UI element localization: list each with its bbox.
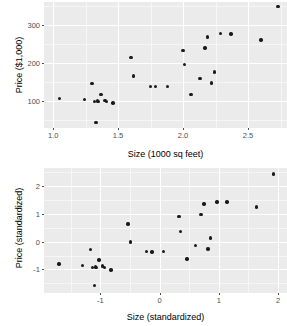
- data-point: [194, 244, 197, 247]
- data-point: [276, 5, 279, 8]
- data-point: [229, 32, 232, 35]
- data-point: [97, 100, 100, 103]
- data-point: [81, 264, 84, 267]
- gridline-major-vertical: [118, 2, 119, 128]
- x-tick-mark: [53, 128, 54, 130]
- gridline-major-horizontal: [44, 214, 287, 215]
- y-tick-mark: [42, 101, 44, 102]
- x-axis-title-top: Size (1000 sq feet): [44, 149, 287, 159]
- data-point: [198, 77, 201, 80]
- gridline-minor-horizontal: [44, 82, 287, 83]
- data-point: [181, 49, 184, 52]
- data-point: [154, 85, 157, 88]
- data-point: [109, 268, 112, 271]
- scatter-plot-price-vs-size-standardized: Price (standardized) Size (standardized)…: [0, 163, 287, 326]
- x-tick-mark: [100, 293, 101, 295]
- x-tick-label: 1: [217, 296, 221, 305]
- data-point: [225, 200, 228, 203]
- gridline-major-horizontal: [44, 186, 287, 187]
- data-point: [206, 35, 209, 38]
- y-tick-mark: [42, 25, 44, 26]
- gridline-major-horizontal: [44, 63, 287, 64]
- x-tick-mark: [183, 128, 184, 130]
- x-tick-mark: [219, 293, 220, 295]
- x-tick-label: 2: [276, 296, 280, 305]
- y-tick-label: 300: [18, 20, 40, 29]
- gridline-minor-horizontal: [44, 256, 287, 257]
- y-tick-mark: [42, 186, 44, 187]
- data-point: [162, 250, 165, 253]
- gridline-minor-vertical: [151, 2, 152, 128]
- gridline-major-horizontal: [44, 242, 287, 243]
- data-point: [97, 258, 100, 261]
- data-point: [202, 202, 205, 205]
- x-tick-label: 2.5: [243, 131, 253, 140]
- data-point: [213, 70, 216, 73]
- gridline-minor-vertical: [86, 2, 87, 128]
- gridline-minor-vertical: [281, 2, 282, 128]
- y-tick-mark: [42, 214, 44, 215]
- data-point: [150, 250, 153, 253]
- gridline-minor-horizontal: [44, 200, 287, 201]
- data-point: [209, 236, 212, 239]
- scatter-plot-price-vs-size: Price ($1,000) Size (1000 sq feet) 1.01.…: [0, 0, 287, 163]
- y-tick-label: 1: [18, 209, 40, 218]
- data-point: [129, 56, 132, 59]
- data-point: [210, 81, 213, 84]
- gridline-major-vertical: [248, 2, 249, 128]
- gridline-minor-horizontal: [44, 228, 287, 229]
- gridline-major-vertical: [53, 2, 54, 128]
- data-point: [255, 205, 258, 208]
- gridline-minor-horizontal: [44, 172, 287, 173]
- y-tick-mark: [42, 242, 44, 243]
- data-point: [83, 98, 86, 101]
- data-point: [93, 284, 96, 287]
- data-point: [149, 85, 152, 88]
- x-tick-label: 1.5: [113, 131, 123, 140]
- data-point: [58, 97, 61, 100]
- gridline-major-horizontal: [44, 269, 287, 270]
- y-tick-label: 200: [18, 59, 40, 68]
- plot-area-bottom: [44, 168, 287, 293]
- gridline-major-horizontal: [44, 25, 287, 26]
- data-point: [89, 248, 92, 251]
- data-point: [132, 74, 135, 77]
- y-tick-label: 2: [18, 182, 40, 191]
- data-point: [199, 213, 202, 216]
- data-point: [185, 257, 188, 260]
- data-point: [215, 200, 218, 203]
- data-point: [126, 222, 129, 225]
- gridline-minor-horizontal: [44, 283, 287, 284]
- gridline-major-horizontal: [44, 101, 287, 102]
- data-point: [111, 101, 114, 104]
- y-tick-mark: [42, 269, 44, 270]
- data-point: [90, 82, 93, 85]
- figure: Price ($1,000) Size (1000 sq feet) 1.01.…: [0, 0, 287, 326]
- data-point: [105, 100, 108, 103]
- data-point: [219, 32, 222, 35]
- gridline-minor-horizontal: [44, 6, 287, 7]
- x-tick-mark: [248, 128, 249, 130]
- data-point: [203, 46, 206, 49]
- data-point: [179, 230, 182, 233]
- x-tick-label: -1: [97, 296, 104, 305]
- plot-area-top: [44, 2, 287, 128]
- data-point: [183, 63, 186, 66]
- gridline-minor-horizontal: [44, 44, 287, 45]
- data-point: [259, 38, 262, 41]
- x-tick-mark: [118, 128, 119, 130]
- y-tick-mark: [42, 63, 44, 64]
- gridline-minor-horizontal: [44, 120, 287, 121]
- data-point: [177, 215, 180, 218]
- y-tick-label: -1: [18, 265, 40, 274]
- x-axis-title-bottom: Size (standardized): [44, 312, 287, 322]
- x-tick-label: 1.0: [48, 131, 58, 140]
- y-tick-label: 0: [18, 237, 40, 246]
- x-tick-label: 0: [157, 296, 161, 305]
- x-tick-mark: [278, 293, 279, 295]
- x-tick-label: 2.0: [178, 131, 188, 140]
- data-point: [145, 250, 148, 253]
- data-point: [129, 240, 132, 243]
- data-point: [206, 247, 209, 250]
- y-tick-label: 100: [18, 97, 40, 106]
